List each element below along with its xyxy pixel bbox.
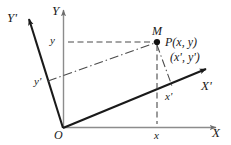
x-axis-label: X <box>212 126 220 139</box>
x-prime-tick-label: x' <box>165 91 172 102</box>
point-coordinates-xy-label: P(x, y) <box>165 36 197 48</box>
point-m-label: M <box>152 25 162 37</box>
point-coordinates-prime-label: (x', y') <box>170 51 200 63</box>
y-axis-label: Y <box>52 4 59 17</box>
x-tick-label: x <box>154 130 159 141</box>
y-tick-label: y <box>50 35 55 46</box>
y-prime-tick-label: y' <box>34 76 41 87</box>
origin-label: O <box>54 129 63 141</box>
y-prime-axis-line <box>29 19 63 128</box>
diagram-canvas <box>0 0 231 145</box>
x-prime-axis-line <box>63 69 206 128</box>
y-prime-axis-label: Y' <box>7 11 17 24</box>
x-prime-axis-label: X' <box>201 79 212 92</box>
point-marker-dot <box>154 39 160 45</box>
coordinate-diagram: Y Y' X X' O M P(x, y) (x', y') y y' x x' <box>0 0 231 145</box>
